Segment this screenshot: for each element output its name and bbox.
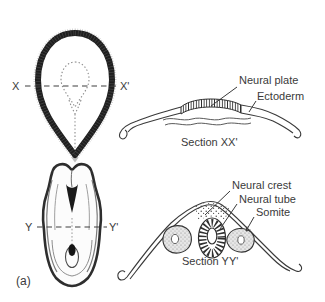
section-label-y-prime: Y' <box>109 221 118 233</box>
section-label-x: X <box>12 80 20 92</box>
neural-tube-lumen <box>207 228 217 244</box>
section-xx-caption: Section XX' <box>181 136 238 148</box>
neural-plate-shape <box>181 99 241 114</box>
section-label-y: Y <box>25 221 33 233</box>
blastopore-dark-spot <box>68 244 75 256</box>
neural-crest-label: Neural crest <box>232 179 291 191</box>
ectoderm-label: Ectoderm <box>257 90 304 102</box>
section-label-x-prime: X' <box>120 80 129 92</box>
mesoderm-wavy-line-bottom <box>165 123 251 125</box>
embryo-development-figure: X X' Neural plate Ectoderm Section XX' <box>0 0 325 302</box>
somite-label: Somite <box>256 206 290 218</box>
figure-canvas: X X' Neural plate Ectoderm Section XX' <box>0 0 325 302</box>
somite-right-myocoel <box>238 236 244 244</box>
section-yy-caption: Section YY' <box>182 255 238 267</box>
section-yy-cross-section: Neural crest Neural tube Somite Section … <box>118 179 302 280</box>
ectoderm-line-left-bottom <box>128 113 181 132</box>
neural-tube-label: Neural tube <box>239 193 296 205</box>
somite-left-myocoel <box>171 234 178 243</box>
somite-leader-line <box>246 217 254 231</box>
ectoderm-line-right-bottom <box>241 113 293 133</box>
mesoderm-wavy-line-top <box>163 118 251 120</box>
neural-plate-label: Neural plate <box>239 74 298 86</box>
neurula-dorsal-view: Y Y' <box>25 164 118 286</box>
figure-part-label: (a) <box>16 274 31 288</box>
ectoderm-line-left-top <box>120 107 181 139</box>
gastrula-dorsal-view: X X' <box>12 33 129 155</box>
section-xx-cross-section: Neural plate Ectoderm Section XX' <box>120 74 305 148</box>
